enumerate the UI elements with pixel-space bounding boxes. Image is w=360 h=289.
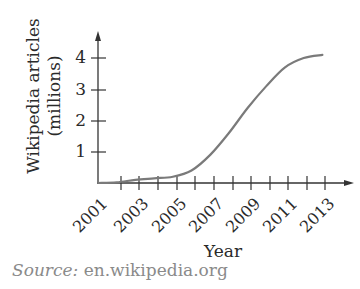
y-tick-label: 2 bbox=[72, 110, 86, 130]
y-tick-label: 1 bbox=[72, 141, 86, 161]
data-curve bbox=[98, 55, 322, 183]
y-axis-label: Wikipedia articles (millions) bbox=[23, 16, 65, 176]
y-axis-arrow-icon bbox=[95, 31, 101, 41]
source-note: Source: en.wikipedia.org bbox=[12, 260, 228, 280]
y-tick-label: 3 bbox=[72, 79, 86, 99]
y-axis-label-line2: (millions) bbox=[44, 16, 65, 176]
x-axis-arrow-icon bbox=[344, 180, 354, 186]
x-axis-label: Year bbox=[204, 241, 242, 261]
y-axis-label-line1: Wikipedia articles bbox=[23, 16, 44, 176]
source-prefix: Source: bbox=[12, 260, 78, 280]
source-text: en.wikipedia.org bbox=[78, 260, 228, 280]
y-tick-label: 4 bbox=[72, 47, 86, 67]
